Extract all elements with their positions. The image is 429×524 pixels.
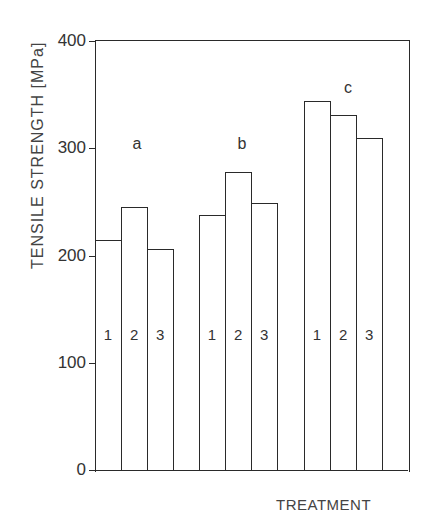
group-label-c: c <box>338 80 358 96</box>
x-axis-title: TREATMENT <box>276 497 371 512</box>
bar-number-label: 2 <box>225 327 251 342</box>
bar-number-label: 1 <box>199 327 225 342</box>
y-tick-label: 400 <box>36 32 86 49</box>
bar-c-2 <box>330 115 357 470</box>
x-axis-baseline <box>90 470 408 471</box>
y-tick <box>89 41 95 42</box>
group-label-b: b <box>232 136 252 152</box>
bar-number-label: 1 <box>95 327 121 342</box>
bar-number-label: 2 <box>330 327 356 342</box>
y-tick-label: 0 <box>36 461 86 478</box>
bar-c-3 <box>356 138 383 470</box>
bar-number-label: 3 <box>147 327 173 342</box>
group-label-a: a <box>127 136 147 152</box>
bar-c-1 <box>304 101 331 470</box>
y-tick <box>89 148 95 149</box>
bar-a-1 <box>95 240 122 470</box>
bar-number-label: 3 <box>251 327 277 342</box>
tensile-strength-bar-chart: TENSILE STRENGTH [MPa] 0100200300400 123… <box>0 0 429 524</box>
bar-number-label: 2 <box>121 327 147 342</box>
bar-number-label: 1 <box>304 327 330 342</box>
bar-number-label: 3 <box>356 327 382 342</box>
y-tick-label: 200 <box>36 247 86 264</box>
bar-b-2 <box>225 172 252 470</box>
y-tick-label: 300 <box>36 139 86 156</box>
bar-a-3 <box>147 249 174 470</box>
y-tick-label: 100 <box>36 354 86 371</box>
y-tick <box>89 470 95 471</box>
